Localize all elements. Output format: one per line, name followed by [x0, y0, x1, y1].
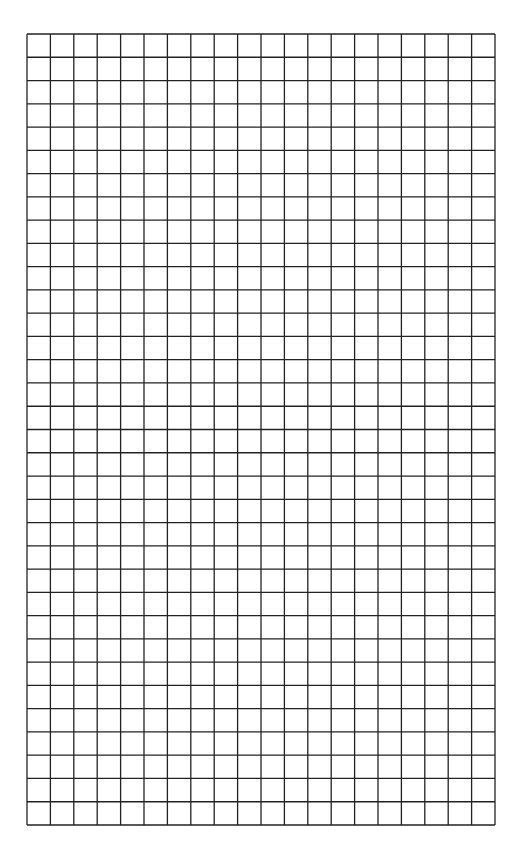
graph-paper-grid — [26, 33, 496, 826]
